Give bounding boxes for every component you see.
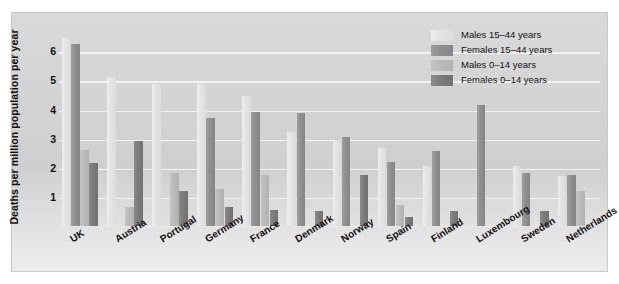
bar[interactable] <box>287 132 296 227</box>
y-axis-tick-label: 3 <box>42 133 56 145</box>
legend-swatch <box>431 30 453 41</box>
chart-plate: Deaths per million population per year 1… <box>11 12 608 272</box>
bar-group <box>287 29 328 227</box>
bar[interactable] <box>342 137 351 227</box>
bar[interactable] <box>378 148 387 227</box>
legend-label: Females 0–14 years <box>461 74 547 85</box>
bar-group <box>378 29 419 227</box>
bar[interactable] <box>567 175 576 227</box>
bar[interactable] <box>423 166 432 227</box>
legend-label: Males 0–14 years <box>461 59 536 70</box>
bar[interactable] <box>107 77 116 227</box>
y-axis-tick-label: 1 <box>42 191 56 203</box>
bar[interactable] <box>134 141 143 227</box>
bar[interactable] <box>333 140 342 227</box>
legend-swatch <box>431 60 453 71</box>
bar[interactable] <box>261 175 270 227</box>
bar[interactable] <box>558 176 567 227</box>
bar[interactable] <box>522 173 531 227</box>
bar[interactable] <box>477 105 486 227</box>
x-axis-tick-label: UK <box>68 227 86 244</box>
legend-swatch <box>431 45 453 56</box>
bar[interactable] <box>152 84 161 227</box>
bar[interactable] <box>297 113 306 227</box>
bar-group <box>152 29 193 227</box>
y-axis-title-text: Deaths per million population per year <box>8 29 20 225</box>
bar-group <box>333 29 374 227</box>
bar[interactable] <box>80 150 89 227</box>
y-axis-title: Deaths per million population per year <box>8 0 26 27</box>
bar[interactable] <box>89 163 98 227</box>
legend-swatch <box>431 75 453 86</box>
bar[interactable] <box>242 96 251 227</box>
bar[interactable] <box>206 118 215 227</box>
bar[interactable] <box>71 44 80 227</box>
bar-group <box>423 29 464 227</box>
bar[interactable] <box>197 84 206 227</box>
bar[interactable] <box>170 173 179 227</box>
bar-group <box>242 29 283 227</box>
bar-group <box>107 29 148 227</box>
y-axis-tick-label: 5 <box>42 74 56 86</box>
y-axis-tick-label: 4 <box>42 104 56 116</box>
bar-group <box>197 29 238 227</box>
y-axis-tick-label: 2 <box>42 162 56 174</box>
bar[interactable] <box>387 162 396 228</box>
y-axis-tick-label: 6 <box>42 45 56 57</box>
legend-label: Females 15–44 years <box>461 44 552 55</box>
bar[interactable] <box>251 112 260 227</box>
bar-group <box>62 29 103 227</box>
bar[interactable] <box>62 38 71 227</box>
legend-label: Males 15–44 years <box>461 29 541 40</box>
bar[interactable] <box>432 151 441 227</box>
bar-group <box>558 29 599 227</box>
